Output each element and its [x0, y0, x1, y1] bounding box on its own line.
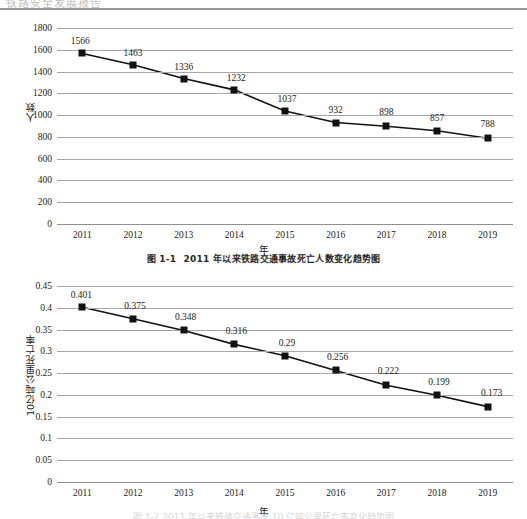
- x-axis-tick-label: 2011: [73, 488, 92, 498]
- gridline: [57, 330, 513, 331]
- y-axis-tick-label: 1800: [33, 23, 52, 33]
- data-point-label: 788: [481, 119, 495, 129]
- figure-fatalities-trend: 人数 1800160014001200100080060040020002011…: [0, 14, 527, 246]
- x-axis-tick-label: 2019: [478, 488, 497, 498]
- y-axis-tick-label: 400: [38, 175, 52, 185]
- data-point-label: 0.316: [226, 326, 247, 336]
- gridline: [57, 137, 513, 138]
- gridline: [57, 482, 513, 483]
- gridline: [57, 159, 513, 160]
- gridline: [57, 72, 513, 73]
- figure-2-caption-faint: 图 1-2 2011 年以来铁路交通事故 10 亿吨公里死亡率变化趋势图: [0, 510, 527, 519]
- data-point-marker: [434, 392, 441, 399]
- y-axis-tick-label: 600: [38, 154, 52, 164]
- chart-1-area: 人数 1800160014001200100080060040020002011…: [0, 14, 527, 246]
- data-point-marker: [180, 327, 187, 334]
- data-point-marker: [484, 403, 491, 410]
- y-axis-tick-label: 0.35: [35, 325, 52, 335]
- x-axis-tick-label: 2013: [174, 230, 193, 240]
- figure-1-caption-text: 2011 年以来铁路交通事故死亡人数变化趋势图: [183, 254, 380, 264]
- gridline: [57, 460, 513, 461]
- data-point-marker: [231, 341, 238, 348]
- gridline: [57, 28, 513, 29]
- data-point-marker: [130, 315, 137, 322]
- data-point-label: 1232: [227, 73, 246, 83]
- data-point-marker: [79, 50, 86, 57]
- y-axis-tick-label: 0.25: [35, 368, 52, 378]
- gridline: [57, 417, 513, 418]
- figure-1-caption-number: 图 1-1: [147, 254, 177, 264]
- data-point-marker: [282, 108, 289, 115]
- y-axis-tick-label: 0.05: [35, 455, 52, 465]
- data-point-label: 0.173: [481, 388, 502, 398]
- data-point-marker: [383, 123, 390, 130]
- y-axis-tick-label: 0.15: [35, 412, 52, 422]
- data-point-label: 0.29: [279, 338, 296, 348]
- gridline: [57, 224, 513, 225]
- page-footer-strip: 图 1-2 2011 年以来铁路交通事故 10 亿吨公里死亡率变化趋势图: [0, 507, 527, 519]
- x-axis-tick-label: 2017: [377, 230, 396, 240]
- x-axis-tick-label: 2014: [225, 230, 244, 240]
- y-axis-tick-label: 1400: [33, 67, 52, 77]
- x-axis-tick-label: 2014: [225, 488, 244, 498]
- x-axis-tick-label: 2016: [326, 230, 345, 240]
- x-axis-tick-label: 2019: [478, 230, 497, 240]
- data-point-marker: [282, 352, 289, 359]
- data-point-label: 1336: [174, 62, 193, 72]
- y-axis-tick-label: 0.2: [40, 390, 52, 400]
- chart-1-plot: 1800160014001200100080060040020002011201…: [57, 28, 513, 224]
- data-point-label: 0.375: [124, 301, 145, 311]
- data-point-label: 0.222: [378, 366, 399, 376]
- y-axis-tick-label: 200: [38, 197, 52, 207]
- figure-1-caption: 图 1-12011 年以来铁路交通事故死亡人数变化趋势图: [0, 252, 527, 265]
- data-point-marker: [231, 86, 238, 93]
- data-point-label: 932: [329, 105, 343, 115]
- y-axis-tick-label: 0.45: [35, 281, 52, 291]
- header-rule: [0, 8, 527, 10]
- data-point-label: 1463: [124, 48, 143, 58]
- x-axis-tick-label: 2018: [428, 488, 447, 498]
- data-point-label: 1037: [278, 94, 297, 104]
- data-point-marker: [180, 75, 187, 82]
- data-point-marker: [383, 382, 390, 389]
- y-axis-tick-label: 1000: [33, 110, 52, 120]
- y-axis-tick-label: 0.1: [40, 433, 52, 443]
- gridline: [57, 395, 513, 396]
- gridline: [57, 202, 513, 203]
- data-point-marker: [332, 119, 339, 126]
- data-point-label: 898: [379, 107, 393, 117]
- data-point-label: 0.348: [175, 312, 196, 322]
- gridline: [57, 373, 513, 374]
- x-axis-tick-label: 2012: [124, 488, 143, 498]
- data-point-marker: [79, 304, 86, 311]
- gridline: [57, 438, 513, 439]
- data-point-label: 857: [430, 113, 444, 123]
- x-axis-tick-label: 2015: [276, 230, 295, 240]
- y-axis-tick-label: 800: [38, 132, 52, 142]
- chart-2-area: 10亿吨公里死亡率 0.450.40.350.30.250.20.150.10.…: [0, 272, 527, 507]
- page-header-strip: 铁路安全发展报告: [0, 0, 527, 12]
- gridline: [57, 180, 513, 181]
- data-point-marker: [484, 135, 491, 142]
- x-axis-tick-label: 2016: [326, 488, 345, 498]
- x-axis-tick-label: 2017: [377, 488, 396, 498]
- x-axis-tick-label: 2013: [174, 488, 193, 498]
- data-point-label: 0.256: [327, 352, 348, 362]
- y-axis-tick-label: 1600: [33, 45, 52, 55]
- y-axis-tick-label: 1200: [33, 88, 52, 98]
- x-axis-tick-label: 2015: [276, 488, 295, 498]
- data-point-marker: [130, 61, 137, 68]
- y-axis-tick-label: 0.3: [40, 346, 52, 356]
- chart-2-plot: 0.450.40.350.30.250.20.150.10.0502011201…: [57, 286, 513, 482]
- gridline: [57, 286, 513, 287]
- data-point-marker: [332, 367, 339, 374]
- x-axis-tick-label: 2012: [124, 230, 143, 240]
- x-axis-tick-label: 2018: [428, 230, 447, 240]
- y-axis-tick-label: 0: [47, 477, 52, 487]
- y-axis-tick-label: 0.4: [40, 303, 52, 313]
- x-axis-tick-label: 2011: [73, 230, 92, 240]
- gridline: [57, 115, 513, 116]
- data-point-label: 1566: [71, 36, 90, 46]
- y-axis-tick-label: 0: [47, 219, 52, 229]
- data-point-label: 0.199: [428, 377, 449, 387]
